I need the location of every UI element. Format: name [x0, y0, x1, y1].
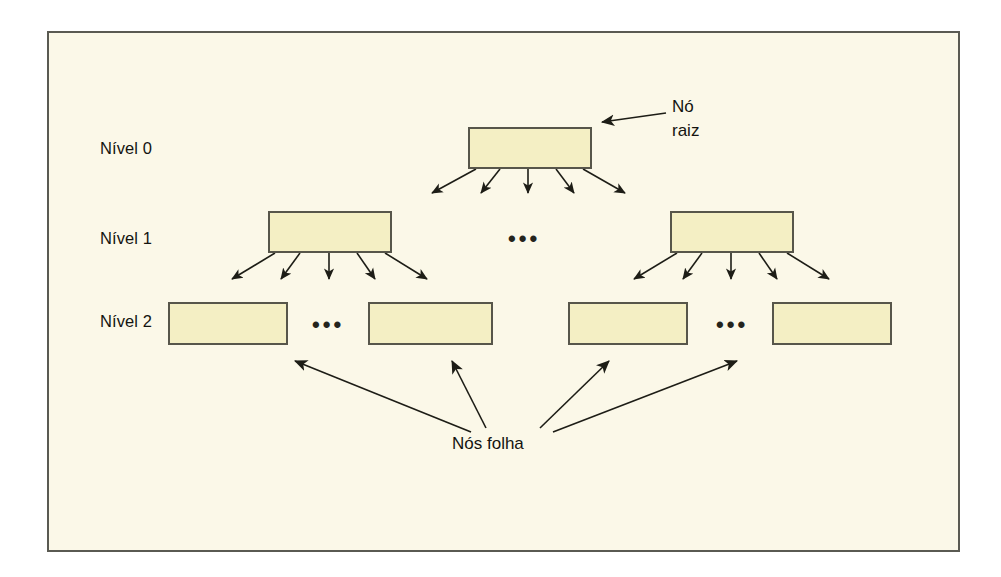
ellipsis-level2-right: •••: [716, 312, 748, 338]
figure-frame: [47, 31, 960, 552]
leaf-callout-label: Nós folha: [452, 432, 524, 456]
root-callout-line2: raiz: [672, 119, 699, 143]
ellipsis-level2-left: •••: [312, 312, 344, 338]
node-leaf-1[interactable]: [168, 302, 288, 345]
node-level1-left[interactable]: [268, 211, 392, 253]
ellipsis-level1: •••: [508, 226, 540, 252]
node-leaf-3[interactable]: [568, 302, 688, 345]
node-leaf-2[interactable]: [368, 302, 493, 345]
root-callout-line1: Nó: [672, 95, 699, 119]
tree-diagram-figure: Nível 0 Nível 1 Nível 2 ••• ••• ••• Nó r…: [0, 0, 1001, 577]
level-label-1: Nível 1: [100, 229, 152, 248]
node-root[interactable]: [468, 127, 592, 169]
level-label-0: Nível 0: [100, 139, 152, 158]
node-leaf-4[interactable]: [772, 302, 892, 345]
root-callout-label: Nó raiz: [672, 95, 699, 143]
node-level1-right[interactable]: [670, 211, 794, 253]
level-label-2: Nível 2: [100, 312, 152, 331]
